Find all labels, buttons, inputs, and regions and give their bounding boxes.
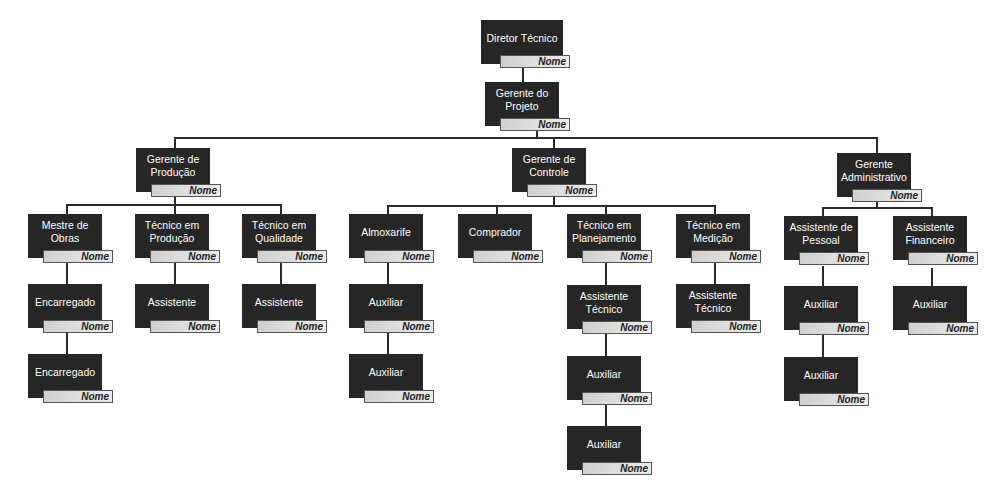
connector bbox=[876, 137, 878, 154]
org-chart: Diretor Técnico Nome Gerente do Projeto … bbox=[0, 0, 1007, 494]
node-assistente-tecnico[interactable]: Assistente Técnico Nome bbox=[676, 284, 762, 340]
node-assistente[interactable]: Assistente Nome bbox=[135, 284, 221, 340]
node-tecnico-qualidade[interactable]: Técnico em Qualidade Nome bbox=[242, 214, 328, 270]
node-name-field[interactable]: Nome bbox=[799, 322, 869, 335]
node-name-field[interactable]: Nome bbox=[364, 390, 434, 403]
node-name-field[interactable]: Nome bbox=[527, 184, 597, 197]
node-assistente-financeiro[interactable]: Assistente Financeiro Nome bbox=[893, 216, 979, 272]
node-gerente-controle[interactable]: Gerente de Controle Nome bbox=[512, 148, 598, 204]
node-name-field[interactable]: Nome bbox=[691, 320, 761, 333]
node-name-field[interactable]: Nome bbox=[691, 250, 761, 263]
node-tecnico-medicao[interactable]: Técnico em Medição Nome bbox=[676, 214, 762, 270]
node-name-field[interactable]: Nome bbox=[473, 250, 543, 263]
node-tecnico-producao[interactable]: Técnico em Produção Nome bbox=[135, 214, 221, 270]
node-name-field[interactable]: Nome bbox=[582, 250, 652, 263]
node-auxiliar[interactable]: Auxiliar Nome bbox=[784, 286, 870, 342]
node-name-field[interactable]: Nome bbox=[43, 320, 113, 333]
node-name-field[interactable]: Nome bbox=[364, 320, 434, 333]
node-diretor-tecnico[interactable]: Diretor Técnico Nome bbox=[481, 20, 567, 76]
node-comprador[interactable]: Comprador Nome bbox=[458, 214, 544, 270]
node-gerente-administrativo[interactable]: Gerente Administrativo Nome bbox=[837, 153, 923, 209]
node-name-field[interactable]: Nome bbox=[500, 55, 570, 68]
node-auxiliar[interactable]: Auxiliar Nome bbox=[349, 284, 435, 340]
node-gerente-projeto[interactable]: Gerente do Projeto Nome bbox=[485, 82, 571, 138]
node-name-field[interactable]: Nome bbox=[908, 322, 978, 335]
node-assistente-tecnico[interactable]: Assistente Técnico Nome bbox=[567, 285, 653, 341]
node-auxiliar[interactable]: Auxiliar Nome bbox=[893, 286, 979, 342]
node-name-field[interactable]: Nome bbox=[500, 118, 570, 131]
node-almoxarife[interactable]: Almoxarife Nome bbox=[349, 214, 435, 270]
node-name-field[interactable]: Nome bbox=[150, 250, 220, 263]
node-name-field[interactable]: Nome bbox=[257, 250, 327, 263]
connector bbox=[387, 205, 716, 207]
node-encarregado[interactable]: Encarregado Nome bbox=[28, 284, 114, 340]
node-assistente-pessoal[interactable]: Assistente de Pessoal Nome bbox=[784, 216, 870, 272]
node-name-field[interactable]: Nome bbox=[43, 390, 113, 403]
node-tecnico-planejamento[interactable]: Técnico em Planejamento Nome bbox=[567, 214, 653, 270]
node-name-field[interactable]: Nome bbox=[364, 250, 434, 263]
node-name-field[interactable]: Nome bbox=[799, 393, 869, 406]
node-auxiliar[interactable]: Auxiliar Nome bbox=[567, 356, 653, 412]
connector bbox=[174, 204, 176, 214]
connector bbox=[280, 204, 282, 214]
node-name-field[interactable]: Nome bbox=[582, 321, 652, 334]
node-name-field[interactable]: Nome bbox=[852, 189, 922, 202]
node-auxiliar[interactable]: Auxiliar Nome bbox=[784, 357, 870, 413]
node-mestre-obras[interactable]: Mestre de Obras Nome bbox=[28, 214, 114, 270]
node-name-field[interactable]: Nome bbox=[151, 184, 221, 197]
node-name-field[interactable]: Nome bbox=[799, 252, 869, 265]
node-name-field[interactable]: Nome bbox=[908, 252, 978, 265]
node-encarregado[interactable]: Encarregado Nome bbox=[28, 354, 114, 410]
node-name-field[interactable]: Nome bbox=[43, 250, 113, 263]
node-auxiliar[interactable]: Auxiliar Nome bbox=[567, 426, 653, 482]
node-gerente-producao[interactable]: Gerente de Produção Nome bbox=[136, 148, 222, 204]
connector bbox=[66, 204, 68, 214]
node-name-field[interactable]: Nome bbox=[257, 320, 327, 333]
node-name-field[interactable]: Nome bbox=[150, 320, 220, 333]
node-name-field[interactable]: Nome bbox=[582, 392, 652, 405]
node-assistente[interactable]: Assistente Nome bbox=[242, 284, 328, 340]
node-auxiliar[interactable]: Auxiliar Nome bbox=[349, 354, 435, 410]
node-name-field[interactable]: Nome bbox=[582, 462, 652, 475]
